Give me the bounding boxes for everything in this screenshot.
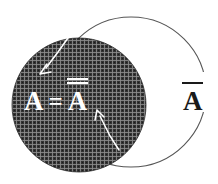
inner-right-operand-group: A [68, 88, 88, 115]
inner-right-operand: A [68, 88, 88, 115]
inner-equation-label: A=A [24, 88, 87, 115]
complement-operand: A [183, 88, 203, 115]
equals-sign: = [44, 89, 68, 114]
inner-left-operand: A [24, 88, 44, 115]
complement-label: A [183, 88, 203, 115]
venn-diagram-figure: A=A A [0, 0, 218, 184]
